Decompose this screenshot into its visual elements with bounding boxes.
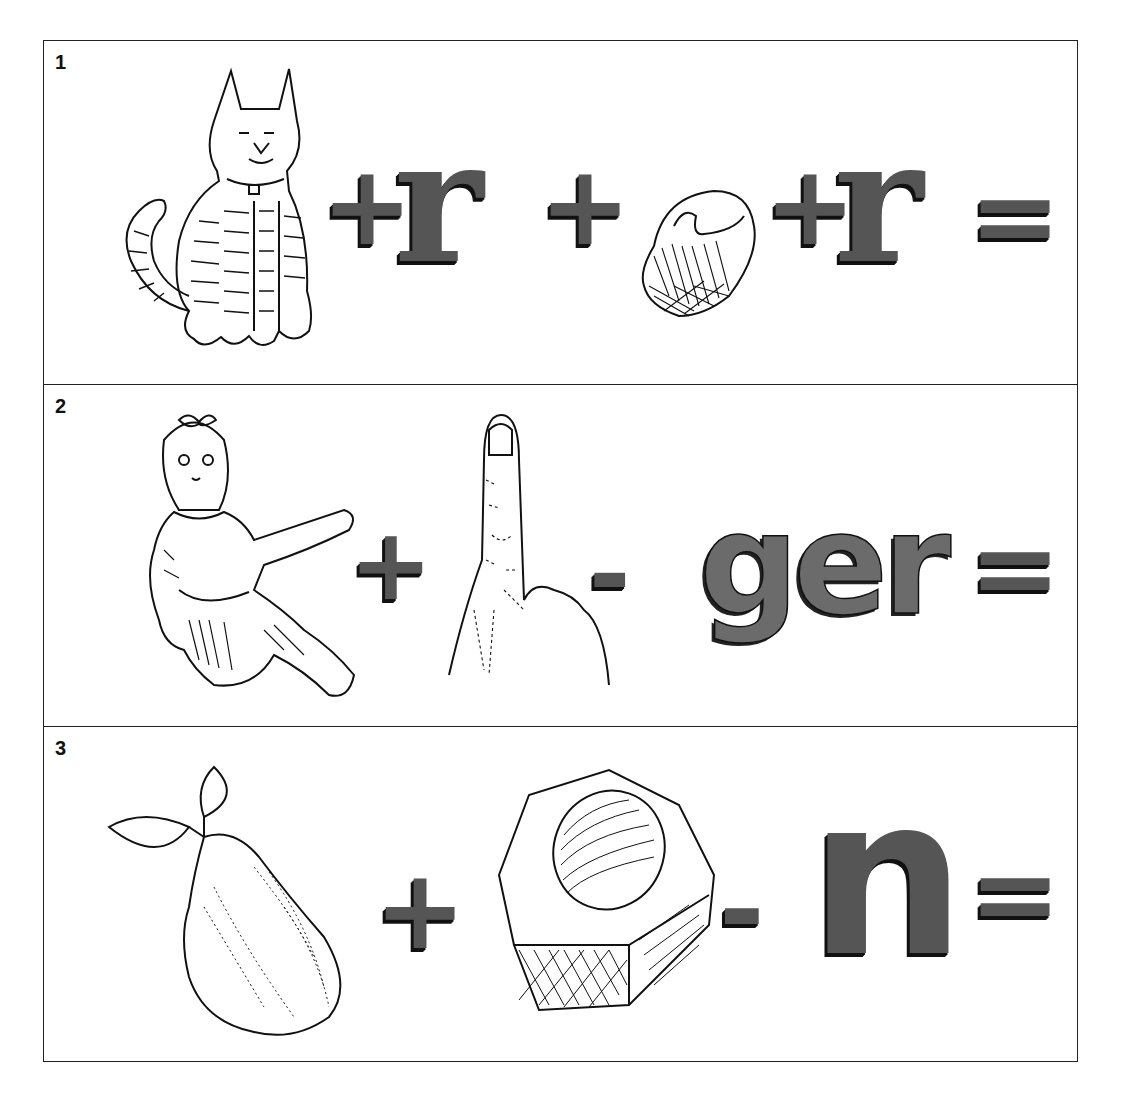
cat-icon — [109, 61, 329, 361]
pear-icon — [104, 757, 379, 1037]
pet-bowl-icon — [634, 186, 759, 321]
puzzle-panel-2: 2 + — [44, 385, 1077, 727]
puzzle-panel-3: 3 + — [44, 727, 1077, 1061]
minus-sign: - — [589, 525, 631, 625]
letter-r: r — [834, 116, 924, 286]
puzzle-number: 1 — [55, 51, 66, 74]
puzzle-number: 2 — [55, 395, 66, 418]
doll-icon — [104, 400, 374, 710]
equals-sign: = — [969, 513, 1061, 623]
letter-r: r — [394, 116, 484, 286]
plus-sign: + — [349, 515, 433, 615]
minus-sign: - — [719, 855, 765, 965]
puzzle-number: 3 — [55, 737, 66, 760]
puzzle-panel-1: 1 + r + — [44, 41, 1077, 385]
finger-icon — [444, 410, 694, 690]
equals-sign: = — [969, 161, 1061, 271]
letter-n: n — [809, 767, 966, 987]
hex-nut-icon — [489, 765, 729, 1025]
plus-sign: + — [374, 855, 466, 965]
plus-sign: + — [539, 151, 631, 261]
rebus-puzzle-sheet: 1 + r + — [43, 40, 1078, 1062]
letters-ger: ger — [699, 495, 945, 635]
equals-sign: = — [969, 839, 1061, 949]
